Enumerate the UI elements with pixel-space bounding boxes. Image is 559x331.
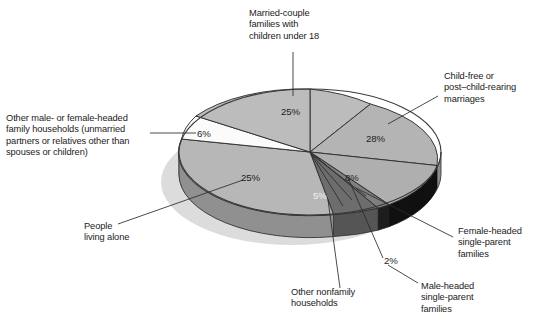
value-male-headed-single-parent: 2% xyxy=(384,255,398,266)
value-other-nonfamily-households: 5% xyxy=(313,190,327,201)
value-other-male-or-female-headed: 6% xyxy=(197,128,211,139)
label-other-nonfamily-households: Other nonfamily households xyxy=(291,287,375,310)
leader-child-free xyxy=(388,96,438,124)
chart-figure: · · · · · · · · · · · · · · · · · · · · … xyxy=(0,0,559,331)
label-married-couple-with-children: Married-couple families with children un… xyxy=(249,8,361,42)
label-other-male-or-female-headed: Other male- or female-headed family hous… xyxy=(6,113,156,159)
value-married-couple-with-children: 25% xyxy=(281,106,300,117)
value-child-free-or-post-child-rearing: 28% xyxy=(366,133,385,144)
label-female-headed-single-parent: Female-headed single-parent families xyxy=(458,226,554,260)
leader-male-headed-lower xyxy=(388,265,418,283)
label-people-living-alone: People living alone xyxy=(84,221,164,244)
value-people-living-alone: 25% xyxy=(241,172,260,183)
label-child-free-or-post-child-rearing: Child-free or post–child-rearing marriag… xyxy=(444,71,556,105)
label-male-headed-single-parent: Male-headed single-parent families xyxy=(421,281,513,315)
value-female-headed-single-parent: 8% xyxy=(345,172,359,183)
